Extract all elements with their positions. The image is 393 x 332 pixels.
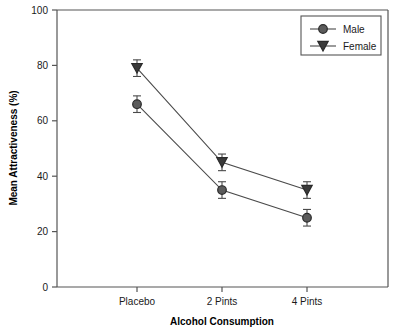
y-tick-label: 20 — [37, 226, 49, 237]
x-tick-label: Placebo — [119, 296, 156, 307]
line-chart: 020406080100 Placebo2 Pints4 Pints Alcoh… — [0, 0, 393, 332]
y-axis-title: Mean Attractiveness (%) — [8, 90, 19, 205]
y-tick-label: 0 — [42, 282, 48, 293]
y-tick-label: 80 — [37, 60, 49, 71]
data-point-marker — [303, 213, 312, 222]
legend-label-female: Female — [343, 41, 377, 52]
x-axis-title: Alcohol Consumption — [170, 316, 274, 327]
y-tick-label: 100 — [31, 5, 48, 16]
circle-marker — [319, 25, 328, 34]
x-tick-label: 2 Pints — [207, 296, 238, 307]
data-point-marker — [218, 186, 227, 195]
y-tick-label: 60 — [37, 115, 49, 126]
chart-container: 020406080100 Placebo2 Pints4 Pints Alcoh… — [0, 0, 393, 332]
data-point-marker — [133, 100, 142, 109]
y-tick-label: 40 — [37, 171, 49, 182]
legend: MaleFemale — [301, 16, 381, 55]
legend-label-male: Male — [343, 24, 365, 35]
x-tick-label: 4 Pints — [292, 296, 323, 307]
